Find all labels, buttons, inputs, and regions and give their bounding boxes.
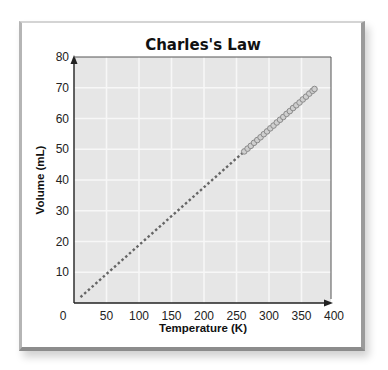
y-tick-label: 20 [56, 235, 70, 249]
x-tick-label: 300 [259, 309, 279, 323]
y-axis-label: Volume (mL) [34, 145, 46, 214]
x-tick-label: 50 [100, 309, 114, 323]
y-tick-label: 40 [56, 173, 70, 187]
y-tick-label: 10 [56, 265, 70, 279]
x-tick-label: 100 [129, 309, 149, 323]
x-tick-label: 250 [226, 309, 246, 323]
data-point [312, 86, 318, 92]
y-tick-label: 50 [56, 142, 70, 156]
y-tick-label: 80 [56, 50, 70, 64]
x-axis-label: Temperature (K) [159, 322, 247, 334]
x-tick-label: 0 [60, 309, 67, 323]
y-tick-label: 60 [56, 112, 70, 126]
y-tick-label: 70 [56, 81, 70, 95]
chart-title: Charles's Law [145, 36, 261, 54]
charles-law-chart: Charles's Law 05010015020025030035040010… [0, 0, 388, 370]
x-tick-label: 350 [291, 309, 311, 323]
x-tick-label: 200 [194, 309, 214, 323]
x-tick-label: 400 [324, 309, 344, 323]
y-tick-label: 30 [56, 204, 70, 218]
x-tick-label: 150 [161, 309, 181, 323]
